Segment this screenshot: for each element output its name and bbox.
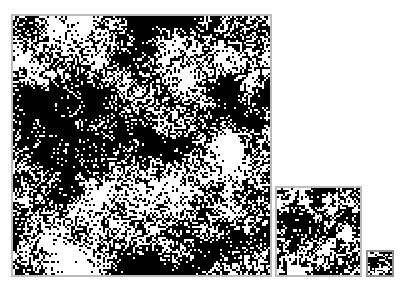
- noise-panel-medium: [275, 186, 362, 277]
- noise-canvas-large: [13, 16, 270, 275]
- noise-panel-small: [366, 250, 394, 277]
- figure-root: [0, 0, 414, 291]
- noise-canvas-small: [368, 252, 392, 275]
- noise-canvas-medium: [277, 188, 360, 275]
- noise-panel-large: [11, 14, 272, 277]
